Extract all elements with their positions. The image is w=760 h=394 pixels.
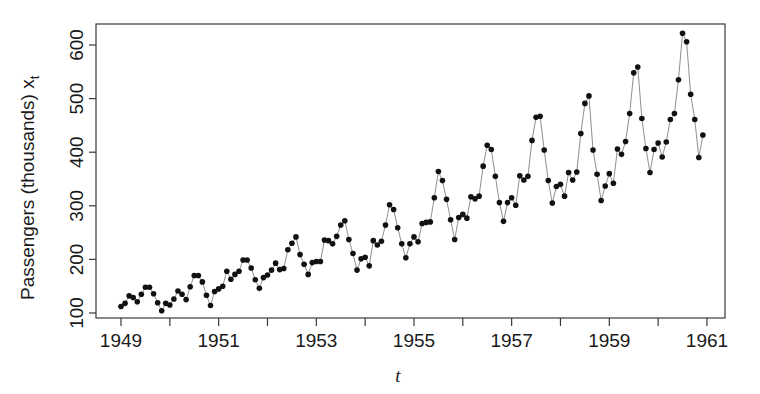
data-point <box>362 254 368 260</box>
data-point <box>330 241 336 247</box>
data-point <box>680 30 686 36</box>
data-point <box>488 147 494 153</box>
data-point <box>558 182 564 188</box>
data-point <box>696 155 702 161</box>
data-point <box>159 308 165 314</box>
data-point <box>635 64 641 70</box>
data-point <box>407 241 413 247</box>
data-point <box>293 234 299 240</box>
data-point <box>391 207 397 213</box>
data-point <box>415 239 421 245</box>
x-tick-label: 1949 <box>100 330 142 351</box>
svg-text:Passengers (thousands) xt: Passengers (thousands) xt <box>17 75 42 300</box>
data-point <box>334 234 340 240</box>
y-tick-label: 300 <box>66 190 87 222</box>
data-point <box>167 302 173 308</box>
y-axis-title-text: Passengers (thousands) x <box>17 79 38 300</box>
data-point <box>582 101 588 107</box>
data-point <box>220 283 226 289</box>
data-point <box>248 265 254 271</box>
data-point <box>550 200 556 206</box>
y-axis-ticks: 100200300400500600 <box>66 29 96 329</box>
data-point <box>196 273 202 279</box>
data-point <box>318 259 324 265</box>
data-point <box>448 217 454 223</box>
data-point <box>480 163 486 169</box>
data-point <box>615 146 621 152</box>
data-point <box>602 183 608 189</box>
data-point <box>350 251 356 257</box>
series-connecting-lines <box>121 33 703 311</box>
data-point <box>269 267 275 273</box>
data-point <box>224 268 230 274</box>
data-point <box>379 238 385 244</box>
data-point <box>444 197 450 203</box>
data-point <box>586 93 592 99</box>
data-point <box>598 198 604 204</box>
data-point <box>257 286 263 292</box>
data-point <box>395 225 401 231</box>
data-point <box>342 218 348 224</box>
data-point <box>643 146 649 152</box>
series-polyline <box>121 33 703 311</box>
x-tick-label: 1957 <box>490 330 532 351</box>
data-point <box>517 173 523 179</box>
data-point <box>623 139 629 145</box>
y-tick-label: 500 <box>66 83 87 115</box>
data-point <box>574 169 580 175</box>
data-point <box>684 39 690 45</box>
data-point <box>570 177 576 183</box>
data-point <box>208 303 214 309</box>
x-tick-label: 1953 <box>295 330 337 351</box>
data-point <box>700 132 706 138</box>
data-point <box>541 147 547 153</box>
data-point <box>366 263 372 269</box>
data-point <box>484 142 490 148</box>
data-point <box>122 301 128 307</box>
y-tick-label: 600 <box>66 29 87 61</box>
data-point <box>692 117 698 123</box>
data-point <box>513 202 519 208</box>
data-point <box>545 178 551 184</box>
data-point <box>297 252 303 258</box>
data-point <box>639 116 645 122</box>
y-tick-label: 400 <box>66 136 87 168</box>
y-tick-label: 100 <box>66 297 87 329</box>
data-point <box>493 174 499 180</box>
data-point <box>631 70 637 76</box>
data-point <box>171 296 177 302</box>
x-axis-title: t <box>395 365 401 386</box>
data-point <box>179 291 185 297</box>
data-point <box>651 147 657 153</box>
data-point <box>440 178 446 184</box>
data-point <box>607 171 613 177</box>
data-point <box>236 268 242 274</box>
y-tick-label: 200 <box>66 244 87 276</box>
data-point <box>383 222 389 228</box>
air-passengers-figure: Passengers (thousands) xt t 100200300400… <box>0 0 760 394</box>
data-point <box>509 195 515 201</box>
data-point <box>147 284 153 290</box>
data-point <box>139 291 145 297</box>
data-point <box>476 193 482 199</box>
data-point <box>399 241 405 247</box>
data-point <box>244 257 250 263</box>
data-point <box>432 195 438 201</box>
data-point <box>537 113 543 119</box>
data-point <box>436 169 442 175</box>
data-point <box>130 295 136 301</box>
data-point <box>387 202 393 208</box>
data-point <box>187 284 193 290</box>
x-tick-label: 1959 <box>588 330 630 351</box>
data-point <box>200 279 206 285</box>
data-point <box>497 200 503 206</box>
data-point <box>525 174 531 180</box>
data-point <box>505 200 511 206</box>
data-point <box>204 293 210 299</box>
data-point <box>672 111 678 117</box>
data-point <box>346 237 352 243</box>
data-point <box>273 260 279 266</box>
x-tick-label: 1961 <box>686 330 728 351</box>
data-point <box>265 272 271 278</box>
data-point <box>289 241 295 247</box>
